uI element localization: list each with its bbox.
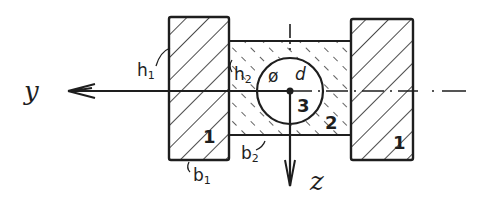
cross-section-diagram: y z h1 h2 b1 b2 ø d 1 2 3 1 <box>0 0 497 199</box>
part-number-middle: 2 <box>325 114 338 132</box>
b1-leader-line <box>188 162 190 172</box>
h1-label: h1 <box>137 62 155 81</box>
part-number-circle: 3 <box>297 97 310 115</box>
left-block-1 <box>169 17 229 160</box>
diameter-symbol: ø <box>268 68 278 85</box>
z-axis-label: z <box>310 168 324 194</box>
diagram-drawing <box>0 0 497 199</box>
b1-label: b1 <box>193 167 211 186</box>
part-number-left: 1 <box>203 128 216 146</box>
origin-point <box>287 88 294 95</box>
b2-label: b2 <box>241 145 259 164</box>
diameter-label: d <box>295 66 306 83</box>
h2-label: h2 <box>234 66 252 85</box>
y-axis-label: y <box>24 78 39 104</box>
part-number-right: 1 <box>393 134 406 152</box>
